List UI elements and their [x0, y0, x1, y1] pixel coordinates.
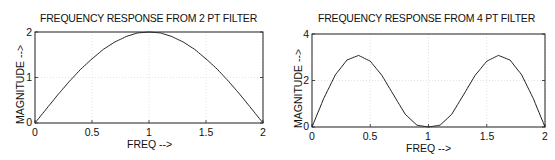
plot-area — [0, 0, 555, 160]
